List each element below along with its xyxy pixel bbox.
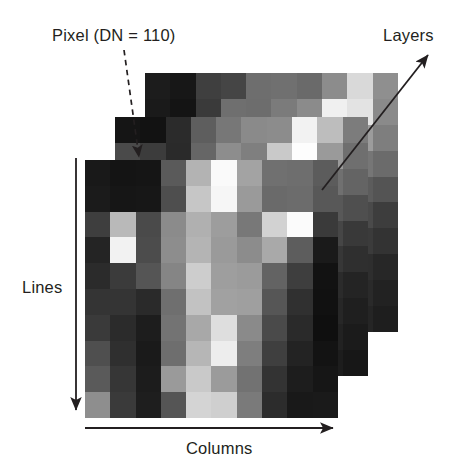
- raster-cell: [211, 289, 236, 315]
- raster-cell: [292, 117, 317, 143]
- raster-cell: [110, 366, 135, 392]
- raster-cell: [343, 246, 368, 272]
- raster-cell: [85, 212, 110, 238]
- raster-cell: [237, 186, 262, 212]
- raster-cell: [136, 160, 161, 186]
- raster-cell: [161, 289, 186, 315]
- raster-cell: [140, 117, 165, 143]
- raster-cell: [85, 392, 110, 418]
- raster-cell: [211, 366, 236, 392]
- raster-cell: [211, 341, 236, 367]
- raster-cell: [161, 341, 186, 367]
- raster-cell: [110, 186, 135, 212]
- figure-canvas: Pixel (DN = 110) Layers Lines Columns: [0, 0, 470, 474]
- raster-cell: [211, 263, 236, 289]
- raster-cell: [237, 160, 262, 186]
- raster-cell: [373, 73, 398, 99]
- raster-cell: [287, 186, 312, 212]
- raster-cell: [343, 169, 368, 195]
- raster-cell: [237, 263, 262, 289]
- raster-cell: [262, 237, 287, 263]
- raster-cell: [313, 341, 338, 367]
- raster-cell: [136, 392, 161, 418]
- raster-cell: [313, 289, 338, 315]
- raster-cell: [161, 315, 186, 341]
- raster-cell: [136, 366, 161, 392]
- layers-label: Layers: [383, 27, 434, 44]
- raster-cell: [322, 73, 347, 99]
- raster-cell: [161, 160, 186, 186]
- raster-cell: [211, 392, 236, 418]
- raster-cell: [186, 289, 211, 315]
- raster-cell: [85, 186, 110, 212]
- raster-cell: [186, 315, 211, 341]
- raster-cell: [186, 186, 211, 212]
- raster-cell: [373, 228, 398, 254]
- raster-cell: [136, 289, 161, 315]
- raster-cell: [267, 117, 292, 143]
- raster-cell: [373, 254, 398, 280]
- raster-cell: [262, 392, 287, 418]
- raster-cell: [343, 195, 368, 221]
- raster-cell: [246, 73, 271, 99]
- raster-cell: [237, 212, 262, 238]
- raster-cell: [211, 212, 236, 238]
- raster-cell: [110, 263, 135, 289]
- raster-cell: [287, 237, 312, 263]
- raster-cell: [373, 99, 398, 125]
- raster-cell: [136, 186, 161, 212]
- raster-cell: [196, 73, 221, 99]
- raster-cell: [166, 117, 191, 143]
- raster-cell: [297, 73, 322, 99]
- raster-cell: [313, 160, 338, 186]
- raster-cell: [373, 280, 398, 306]
- raster-cell: [313, 392, 338, 418]
- raster-cell: [186, 212, 211, 238]
- raster-cell: [241, 117, 266, 143]
- raster-cell: [110, 160, 135, 186]
- raster-cell: [287, 341, 312, 367]
- raster-cell: [313, 366, 338, 392]
- raster-cell: [262, 341, 287, 367]
- raster-cell: [110, 341, 135, 367]
- raster-cell: [343, 143, 368, 169]
- columns-label: Columns: [186, 440, 253, 457]
- raster-cell: [287, 212, 312, 238]
- raster-cell: [186, 392, 211, 418]
- raster-cell: [221, 73, 246, 99]
- raster-cell: [136, 212, 161, 238]
- raster-cell: [262, 263, 287, 289]
- raster-cell: [161, 212, 186, 238]
- raster-cell: [211, 160, 236, 186]
- raster-cell: [237, 341, 262, 367]
- raster-cell: [115, 117, 140, 143]
- raster-cell: [287, 392, 312, 418]
- raster-cell: [237, 392, 262, 418]
- raster-cell: [237, 366, 262, 392]
- raster-cell: [343, 272, 368, 298]
- raster-cell: [85, 289, 110, 315]
- raster-cell: [287, 366, 312, 392]
- raster-cell: [186, 341, 211, 367]
- raster-cell: [136, 341, 161, 367]
- raster-cell: [271, 73, 296, 99]
- raster-cell: [161, 392, 186, 418]
- raster-cell: [347, 73, 372, 99]
- raster-cell: [211, 315, 236, 341]
- raster-cell: [343, 221, 368, 247]
- raster-cell: [343, 324, 368, 350]
- raster-cell: [170, 73, 195, 99]
- raster-cell: [211, 186, 236, 212]
- raster-cell: [262, 212, 287, 238]
- raster-cell: [287, 315, 312, 341]
- raster-cell: [191, 117, 216, 143]
- raster-cell: [343, 117, 368, 143]
- raster-cell: [287, 160, 312, 186]
- raster-cell: [373, 177, 398, 203]
- raster-cell: [313, 315, 338, 341]
- raster-cell: [343, 350, 368, 376]
- raster-cell: [136, 315, 161, 341]
- raster-cell: [313, 212, 338, 238]
- raster-cell: [343, 298, 368, 324]
- raster-cell: [161, 366, 186, 392]
